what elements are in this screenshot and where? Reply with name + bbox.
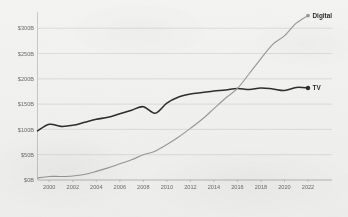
axis-lines-group xyxy=(38,12,309,182)
x-tick-label: 2000 xyxy=(43,184,55,190)
y-axis-tick-labels: $0B$50B$100B$150B$200B$250B$300B xyxy=(18,25,34,183)
x-tick-label: 2002 xyxy=(67,184,79,190)
x-tick-label: 2014 xyxy=(208,184,220,190)
series-line-digital xyxy=(38,16,309,178)
y-tick-label: $200B xyxy=(18,76,34,82)
gridlines-group xyxy=(38,28,333,180)
series-line-tv xyxy=(38,87,309,131)
y-tick-label: $50B xyxy=(21,152,34,158)
x-tick-label: 2010 xyxy=(161,184,173,190)
x-tick-label: 2012 xyxy=(184,184,196,190)
series-label-digital: Digital xyxy=(313,12,333,20)
chart-container: $0B$50B$100B$150B$200B$250B$300B 2000200… xyxy=(0,0,348,217)
x-tick-label: 2022 xyxy=(302,184,314,190)
series-lines-group xyxy=(38,16,309,178)
x-tick-label: 2016 xyxy=(231,184,243,190)
y-tick-label: $0B xyxy=(24,177,34,183)
line-chart-plot: $0B$50B$100B$150B$200B$250B$300B 2000200… xyxy=(0,0,348,217)
x-tick-label: 2004 xyxy=(90,184,102,190)
x-tick-label: 2008 xyxy=(137,184,149,190)
series-end-labels-group: TVDigital xyxy=(313,12,333,91)
y-tick-label: $300B xyxy=(18,25,34,31)
series-end-marker-tv xyxy=(306,86,310,90)
y-tick-label: $100B xyxy=(18,127,34,133)
x-tick-label: 2006 xyxy=(114,184,126,190)
x-tick-label: 2018 xyxy=(255,184,267,190)
y-tick-label: $150B xyxy=(18,101,34,107)
y-tick-label: $250B xyxy=(18,51,34,57)
series-label-tv: TV xyxy=(313,84,322,91)
x-axis-tick-labels: 2000200220042006200820102012201420162018… xyxy=(43,184,314,190)
x-tick-label: 2020 xyxy=(278,184,290,190)
series-end-marker-digital xyxy=(306,14,310,18)
